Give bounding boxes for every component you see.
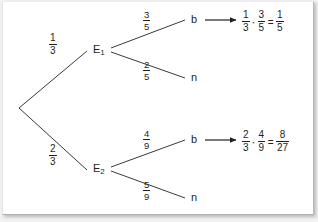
equation-result-value: 1 5 <box>276 10 284 33</box>
probability-label-e2: 2 3 <box>49 144 57 167</box>
multiply-operator: · <box>252 134 256 149</box>
node-e1: E1 <box>93 44 105 57</box>
equation-result-value: 8 27 <box>276 130 289 153</box>
equals-operator: = <box>268 136 274 148</box>
probability-label-e2-b: 4 9 <box>143 129 150 151</box>
probability-label-e1-b: 3 5 <box>143 10 150 32</box>
multiply-operator: · <box>252 14 256 29</box>
probability-label-e2-n: 5 9 <box>143 180 150 202</box>
probability-label-e1: 1 3 <box>49 33 57 56</box>
equation-term-2: 4 9 <box>258 130 266 153</box>
figure-root: 1 3 2 3 E1 E2 3 5 2 5 4 <box>0 0 318 222</box>
result-equation-e2-b: 2 3 · 4 9 = 8 27 <box>241 130 290 153</box>
equation-term-1: 1 3 <box>242 10 250 33</box>
leaf-label-e2-n: n <box>191 192 197 203</box>
equation-term-2: 3 5 <box>258 10 266 33</box>
node-e2: E2 <box>93 163 105 176</box>
leaf-label-e2-b: b <box>191 134 197 145</box>
result-equation-e1-b: 1 3 · 3 5 = 1 5 <box>241 10 285 33</box>
leaf-label-e1-b: b <box>191 14 197 25</box>
leaf-label-e1-n: n <box>191 72 197 83</box>
diagram-card: 1 3 2 3 E1 E2 3 5 2 5 4 <box>2 1 314 215</box>
equals-operator: = <box>268 16 274 28</box>
node-e1-subscript: 1 <box>100 48 104 57</box>
node-e2-subscript: 2 <box>100 167 104 176</box>
edge-root-to-e1 <box>19 51 87 108</box>
equation-term-1: 2 3 <box>242 130 250 153</box>
probability-label-e1-n: 2 5 <box>143 60 150 82</box>
